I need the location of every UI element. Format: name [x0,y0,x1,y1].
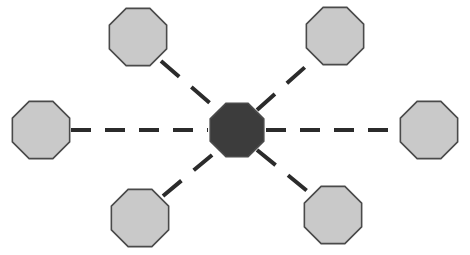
spoke-node-left[interactable] [12,101,69,158]
spoke-node-right[interactable] [400,101,457,158]
network-diagram [0,0,470,255]
spoke-node-bottom-left[interactable] [111,189,168,246]
diagram-canvas [0,0,470,255]
spoke-node-top-right[interactable] [306,7,363,64]
spoke-node-bottom-right[interactable] [304,186,361,243]
spoke-node-top-left[interactable] [109,8,166,65]
center-hub-node[interactable] [210,103,264,157]
